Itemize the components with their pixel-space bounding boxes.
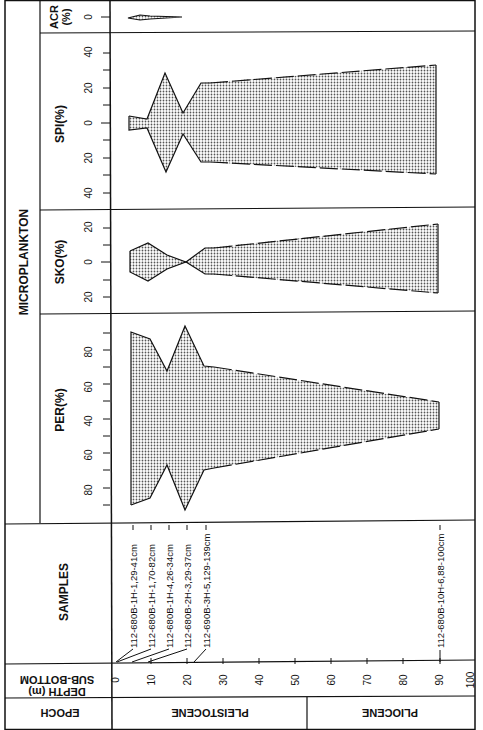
sample-label: 112-680B-1H-4,26-34cm: [164, 544, 175, 648]
per-range-shape: [131, 326, 439, 510]
depth-axis-label: SUB-BOTTOM DEPTH (m): [20, 674, 94, 698]
svg-text:0: 0: [83, 259, 94, 265]
svg-text:(%): (%): [60, 8, 72, 25]
epoch-header: EPOCH: [40, 707, 79, 719]
svg-text:60: 60: [83, 449, 94, 461]
svg-text:PER(%): PER(%): [53, 388, 67, 431]
svg-text:80: 80: [83, 346, 94, 358]
acr-panel-label: ACR (%) 0: [48, 5, 110, 29]
svg-text:40: 40: [83, 46, 94, 58]
sample-label: 112-680B-1H-1,70-82cm: [146, 544, 157, 648]
svg-text:70: 70: [362, 674, 373, 686]
svg-text:30: 30: [218, 674, 229, 686]
sample-labels: 112-680B-1H-1,29-41cm 112-680B-1H-1,70-8…: [128, 525, 446, 648]
svg-text:SUB-BOTTOM: SUB-BOTTOM: [20, 674, 94, 686]
svg-text:80: 80: [398, 674, 409, 686]
sample-label: 112-680B-10H-6,88-100cm: [435, 533, 446, 648]
svg-text:0: 0: [83, 14, 94, 20]
svg-text:40: 40: [254, 674, 265, 686]
svg-text:20: 20: [83, 291, 94, 303]
svg-text:90: 90: [434, 674, 445, 686]
sample-label: 112-680B-1H-1,29-41cm: [128, 544, 139, 648]
spi-panel-label: SPI(%) 40 20 0 20 40: [53, 46, 110, 199]
svg-text:0: 0: [83, 120, 94, 126]
svg-text:50: 50: [290, 674, 301, 686]
svg-text:60: 60: [83, 381, 94, 393]
svg-text:100: 100: [465, 671, 476, 688]
acr-range-shape: [128, 15, 182, 20]
svg-text:40: 40: [83, 415, 94, 427]
sko-range-shape: [130, 224, 438, 293]
spi-range-shape: [129, 65, 436, 174]
samples-header: SAMPLES: [57, 563, 71, 621]
svg-text:40: 40: [83, 187, 94, 199]
svg-text:ACR: ACR: [48, 5, 60, 29]
sample-label: 112-680B-2H-3,29-37cm: [182, 544, 193, 648]
sample-label: 112-690B-3H-5,129-139cm: [201, 533, 212, 648]
svg-text:20: 20: [83, 152, 94, 164]
svg-text:SPI(%): SPI(%): [53, 105, 67, 143]
svg-text:0: 0: [110, 677, 121, 683]
sko-panel-label: SKO(%) 20 0 20: [53, 221, 110, 303]
group-title: MICROPLANKTON: [17, 209, 31, 315]
svg-text:20: 20: [83, 221, 94, 233]
sample-leader-lines: [116, 649, 440, 662]
svg-text:20: 20: [182, 674, 193, 686]
svg-text:DEPTH (m): DEPTH (m): [28, 686, 86, 698]
axis-line: [110, 0, 112, 730]
epoch-pleistocene: PLEISTOCENE: [171, 707, 248, 719]
svg-text:SKO(%): SKO(%): [53, 240, 67, 285]
diagram-canvas: MICROPLANKTON ACR (%) 0 SPI(%) 40 20 0 2…: [0, 0, 483, 730]
svg-text:10: 10: [146, 674, 157, 686]
svg-text:80: 80: [83, 484, 94, 496]
epoch-pliocene: PLIOCENE: [362, 707, 418, 719]
svg-text:60: 60: [326, 674, 337, 686]
range-chart-diagram: MICROPLANKTON ACR (%) 0 SPI(%) 40 20 0 2…: [0, 0, 483, 730]
per-panel-label: PER(%) 80 60 40 60 80: [53, 333, 110, 505]
svg-text:20: 20: [83, 82, 94, 94]
